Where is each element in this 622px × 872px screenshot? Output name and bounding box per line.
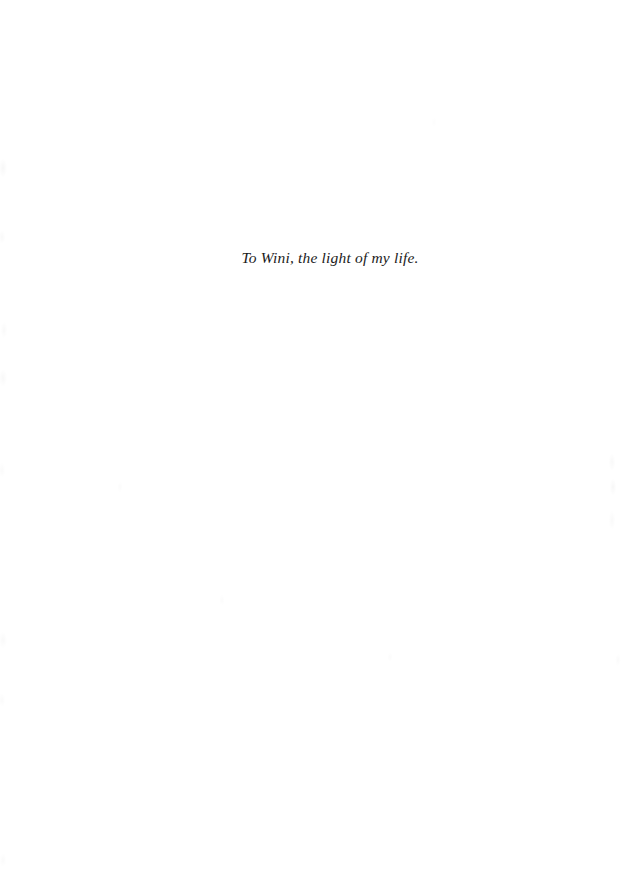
dedication-block: To Wini, the light of my life. <box>0 248 622 268</box>
dedication-text: To Wini, the light of my life. <box>241 248 418 268</box>
dedication-page: To Wini, the light of my life. <box>0 0 622 872</box>
